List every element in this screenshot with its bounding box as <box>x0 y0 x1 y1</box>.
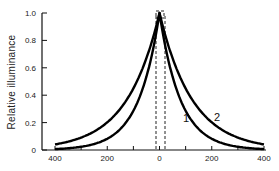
y-tick-label: 0.4 <box>25 91 37 100</box>
x-ticks: 4002000200400 <box>48 146 271 163</box>
curve-2 <box>55 13 264 144</box>
x-tick-label: 0 <box>157 154 162 163</box>
x-tick-label: 200 <box>101 154 115 163</box>
curve-1 <box>55 13 264 149</box>
y-tick-label: 0.2 <box>25 119 37 128</box>
y-axis-title: Relative illuminance <box>6 34 17 129</box>
y-tick-label: 1.0 <box>25 9 37 18</box>
y-tick-label: 0 <box>32 146 37 155</box>
curve-1-label: 1 <box>183 112 189 124</box>
illuminance-chart: Relative illuminance 00.20.40.60.81.0 40… <box>0 0 279 171</box>
x-tick-label: 200 <box>205 154 219 163</box>
x-tick-label: 400 <box>257 154 271 163</box>
y-tick-label: 0.6 <box>25 64 37 73</box>
curve-2-label: 2 <box>214 111 220 123</box>
y-ticks: 00.20.40.60.81.0 <box>25 9 47 155</box>
x-tick-label: 400 <box>48 154 62 163</box>
y-tick-label: 0.8 <box>25 36 37 45</box>
